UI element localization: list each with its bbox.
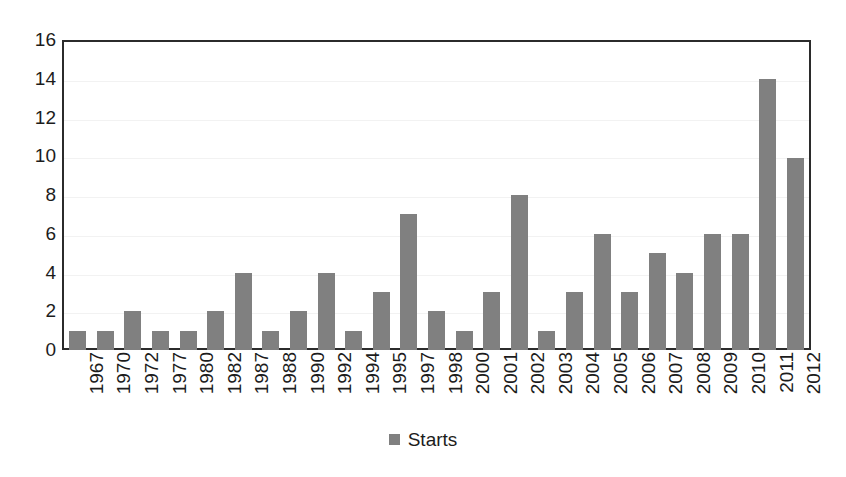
bar-1992 xyxy=(318,273,335,351)
bar-1982 xyxy=(207,311,224,350)
bar-2000 xyxy=(456,331,473,350)
x-tick-1970: 1970 xyxy=(114,352,133,422)
bar-1998 xyxy=(428,311,445,350)
x-tick-1994: 1994 xyxy=(363,352,382,422)
bar-1995 xyxy=(373,292,390,350)
bar-1997 xyxy=(400,214,417,350)
x-tick-1988: 1988 xyxy=(280,352,299,422)
y-tick-2: 2 xyxy=(0,301,56,320)
x-tick-1997: 1997 xyxy=(418,352,437,422)
bar-1972 xyxy=(124,311,141,350)
bar-2005 xyxy=(594,234,611,350)
bar-2010 xyxy=(732,234,749,350)
chart-legend: Starts xyxy=(0,430,846,449)
x-tick-1990: 1990 xyxy=(308,352,327,422)
y-tick-16: 16 xyxy=(0,30,56,49)
y-tick-0: 0 xyxy=(0,340,56,359)
x-tick-1998: 1998 xyxy=(446,352,465,422)
y-tick-10: 10 xyxy=(0,146,56,165)
bar-2006 xyxy=(621,292,638,350)
bar-1980 xyxy=(180,331,197,350)
x-tick-1967: 1967 xyxy=(87,352,106,422)
legend-swatch-starts xyxy=(389,434,400,445)
x-tick-1980: 1980 xyxy=(197,352,216,422)
y-axis-tick-labels: 1614121086420 xyxy=(0,0,56,477)
y-tick-8: 8 xyxy=(0,185,56,204)
x-tick-2002: 2002 xyxy=(528,352,547,422)
x-tick-2007: 2007 xyxy=(666,352,685,422)
bar-series-starts xyxy=(64,40,809,350)
y-tick-4: 4 xyxy=(0,263,56,282)
bar-2004 xyxy=(566,292,583,350)
x-tick-1977: 1977 xyxy=(170,352,189,422)
x-tick-1972: 1972 xyxy=(142,352,161,422)
bar-2011 xyxy=(759,79,776,350)
bar-1990 xyxy=(290,311,307,350)
x-tick-1987: 1987 xyxy=(252,352,271,422)
x-tick-2006: 2006 xyxy=(639,352,658,422)
legend-label-starts: Starts xyxy=(408,430,458,449)
x-tick-1995: 1995 xyxy=(390,352,409,422)
x-tick-2012: 2012 xyxy=(804,352,823,422)
bar-1977 xyxy=(152,331,169,350)
x-tick-1982: 1982 xyxy=(225,352,244,422)
bar-chart: 1614121086420 19671970197219771980198219… xyxy=(0,0,846,477)
bar-1994 xyxy=(345,331,362,350)
x-axis-tick-labels: 1967197019721977198019821987198819901992… xyxy=(64,352,809,422)
bar-2003 xyxy=(538,331,555,350)
bar-1967 xyxy=(69,331,86,350)
x-tick-1992: 1992 xyxy=(335,352,354,422)
x-tick-2008: 2008 xyxy=(694,352,713,422)
y-tick-6: 6 xyxy=(0,224,56,243)
bar-1970 xyxy=(97,331,114,350)
x-tick-2005: 2005 xyxy=(611,352,630,422)
x-tick-2011: 2011 xyxy=(777,352,796,422)
x-tick-2001: 2001 xyxy=(501,352,520,422)
x-tick-2003: 2003 xyxy=(556,352,575,422)
bar-2007 xyxy=(649,253,666,350)
bar-1988 xyxy=(262,331,279,350)
x-tick-2004: 2004 xyxy=(583,352,602,422)
x-tick-2010: 2010 xyxy=(749,352,768,422)
bar-2008 xyxy=(676,273,693,351)
y-tick-12: 12 xyxy=(0,108,56,127)
bar-1987 xyxy=(235,273,252,351)
x-tick-2000: 2000 xyxy=(473,352,492,422)
bar-2009 xyxy=(704,234,721,350)
bar-2012 xyxy=(787,158,804,350)
y-tick-14: 14 xyxy=(0,69,56,88)
x-tick-2009: 2009 xyxy=(721,352,740,422)
bar-2002 xyxy=(511,195,528,350)
bar-2001 xyxy=(483,292,500,350)
